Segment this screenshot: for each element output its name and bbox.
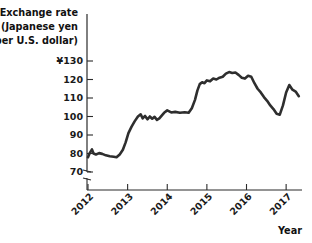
y-axis-title-line-1: Exchange rate [0,7,78,18]
y-axis-title: Exchange rate (Japanese yen per U.S. dol… [0,7,78,46]
x-axis-tick-label: 2012 [69,191,95,217]
x-axis-ticks: 201220132014201520162017 [69,184,294,217]
y-axis-tick-label: 90 [70,129,84,140]
y-axis-break-icon [83,170,91,190]
y-axis-tick-label: 100 [63,111,83,122]
x-axis-tick-label: 2014 [148,190,175,217]
x-axis-tick-label: 2013 [109,191,135,217]
y-axis-tick-label: 70 [70,166,84,177]
x-axis-tick-label: 2015 [188,191,214,217]
y-axis-title-line-3: per U.S. dollar) [0,35,78,46]
y-axis-tick-label: 120 [63,74,83,85]
x-axis-title: Year [277,225,302,236]
y-axis-tick-label: 110 [63,92,83,103]
chart-figure: Exchange rate (Japanese yen per U.S. dol… [0,0,312,243]
y-axis-tick-label: ¥130 [57,55,84,66]
y-axis-tick-label: 80 [70,148,84,159]
y-axis-title-line-2: (Japanese yen [1,21,78,32]
x-axis-tick-label: 2017 [267,191,293,217]
x-axis-tick-label: 2016 [227,190,254,217]
exchange-rate-line-chart: Exchange rate (Japanese yen per U.S. dol… [0,0,312,243]
data-series-line [88,72,299,157]
